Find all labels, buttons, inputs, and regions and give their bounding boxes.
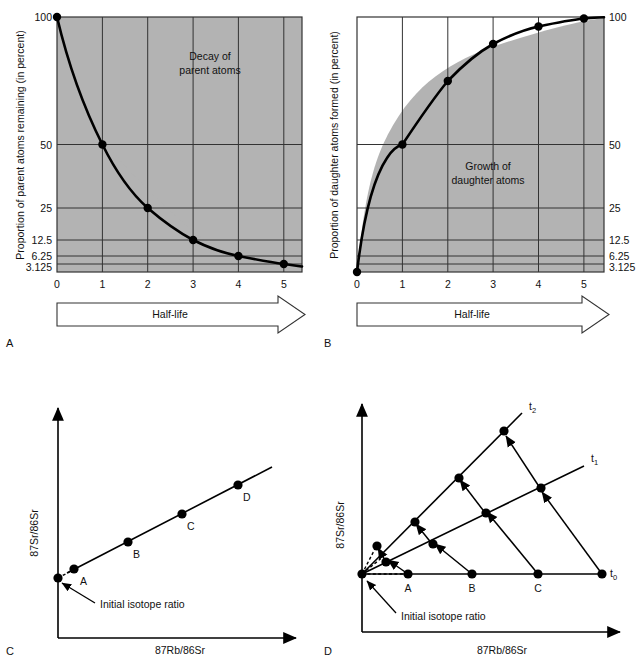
t0-point-b bbox=[467, 569, 476, 578]
t2-point-d bbox=[499, 426, 508, 435]
point-label-b: B bbox=[468, 582, 475, 594]
xtick-label: 1 bbox=[99, 278, 105, 290]
panel-d: A B C t0 t1 t2 Initial isotope ratio 87S… bbox=[320, 370, 641, 659]
panel-b-ytick-labels: 100 50 25 12.5 6.25 3.125 bbox=[609, 11, 635, 273]
panel-c-svg: A B C D Initial isotope ratio 87Sr/86Sr … bbox=[0, 370, 320, 659]
xtick-label: 3 bbox=[190, 278, 196, 290]
point-label-a: A bbox=[80, 575, 87, 587]
panel-d-intercept-point bbox=[357, 569, 366, 578]
panel-c-ylabel: 87Sr/86Sr bbox=[28, 509, 40, 557]
t2-point-b bbox=[410, 517, 419, 526]
xtick-label: 2 bbox=[445, 278, 451, 290]
ytick-label: 3.125 bbox=[609, 261, 635, 273]
t2-point-c bbox=[454, 473, 463, 482]
point-label-a: A bbox=[404, 582, 411, 594]
panel-c: A B C D Initial isotope ratio 87Sr/86Sr … bbox=[0, 370, 320, 659]
region-label-line2: daughter atoms bbox=[452, 174, 525, 186]
panel-b-ylabel: Proportion of daughter atoms formed (in … bbox=[328, 31, 340, 259]
panel-d-xlabel: 87Rb/86Sr bbox=[477, 644, 528, 656]
t1-point-d bbox=[536, 483, 545, 492]
panel-a-ylabel: Proportion of parent atoms remaining (in… bbox=[14, 30, 26, 259]
panel-b-letter: B bbox=[324, 337, 331, 349]
panel-d-time-label-t1: t1 bbox=[591, 452, 598, 467]
ytick-label: 25 bbox=[609, 202, 621, 214]
panel-c-xlabel: 87Rb/86Sr bbox=[155, 644, 206, 656]
svg-text:t1: t1 bbox=[591, 452, 598, 467]
xtick-label: 0 bbox=[354, 278, 360, 290]
panel-b-svg: 100 50 25 12.5 6.25 3.125 0 1 2 3 4 5 Gr… bbox=[320, 0, 641, 360]
ytick-label: 100 bbox=[609, 11, 627, 23]
xtick-label: 4 bbox=[536, 278, 542, 290]
region-label-line1: Growth of bbox=[465, 160, 511, 172]
t2-sub: 2 bbox=[532, 406, 536, 415]
panel-a-letter: A bbox=[6, 337, 14, 349]
panel-d-point-labels: A B C bbox=[404, 582, 542, 594]
panel-b: 100 50 25 12.5 6.25 3.125 0 1 2 3 4 5 Gr… bbox=[320, 0, 641, 360]
t1-point-c bbox=[481, 508, 490, 517]
panel-d-svg: A B C t0 t1 t2 Initial isotope ratio 87S… bbox=[320, 370, 641, 659]
panel-d-ylabel: 87Sr/86Sr bbox=[334, 501, 346, 549]
ytick-label: 50 bbox=[40, 139, 52, 151]
ytick-label: 12.5 bbox=[32, 234, 53, 246]
region-label-line2: parent atoms bbox=[179, 64, 240, 76]
panel-d-evolution-arrows-t0-t1 bbox=[388, 492, 602, 574]
t0-sub: 0 bbox=[613, 573, 617, 582]
panel-a-xlabel: Half-life bbox=[152, 308, 188, 320]
xtick-label: 1 bbox=[399, 278, 405, 290]
panel-a-ytick-labels: 100 50 25 12.5 6.25 3.125 bbox=[26, 11, 52, 273]
panel-a: 100 50 25 12.5 6.25 3.125 0 1 2 3 4 5 De… bbox=[0, 0, 320, 360]
ytick-label: 25 bbox=[40, 202, 52, 214]
figure-page: 100 50 25 12.5 6.25 3.125 0 1 2 3 4 5 De… bbox=[0, 0, 641, 659]
point-label-b: B bbox=[133, 548, 140, 560]
point-label-d: D bbox=[243, 491, 251, 503]
panel-d-time-label-t0: t0 bbox=[610, 567, 617, 582]
data-point-a bbox=[69, 564, 78, 573]
t1-point-b bbox=[428, 539, 437, 548]
panel-d-letter: D bbox=[324, 645, 332, 657]
xtick-label: 5 bbox=[281, 278, 287, 290]
data-point-c bbox=[177, 509, 186, 518]
ytick-label: 50 bbox=[609, 139, 621, 151]
data-point-d bbox=[233, 480, 242, 489]
svg-text:t0: t0 bbox=[610, 567, 617, 582]
ytick-label: 3.125 bbox=[26, 261, 52, 273]
xtick-label: 2 bbox=[145, 278, 151, 290]
panel-a-xtick-labels: 0 1 2 3 4 5 bbox=[54, 278, 287, 290]
panel-d-time-label-t2: t2 bbox=[529, 400, 536, 415]
panel-c-annotation-leader bbox=[62, 583, 95, 603]
panel-b-xlabel: Half-life bbox=[454, 308, 490, 320]
t0-point-d bbox=[597, 569, 606, 578]
xtick-label: 4 bbox=[235, 278, 241, 290]
point-label-c: C bbox=[534, 582, 542, 594]
panel-d-annotation-leader bbox=[367, 581, 396, 613]
t1-point-a bbox=[381, 557, 390, 566]
data-point-b bbox=[123, 537, 132, 546]
panel-d-annotation: Initial isotope ratio bbox=[401, 610, 486, 622]
region-label-line1: Decay of bbox=[189, 50, 231, 62]
t0-point-a bbox=[403, 569, 412, 578]
panel-c-point-labels: A B C D bbox=[80, 491, 251, 587]
xtick-label: 0 bbox=[54, 278, 60, 290]
t1-sub: 1 bbox=[594, 458, 598, 467]
xtick-label: 5 bbox=[581, 278, 587, 290]
panel-c-annotation: Initial isotope ratio bbox=[100, 598, 185, 610]
panel-b-xtick-labels: 0 1 2 3 4 5 bbox=[354, 278, 587, 290]
ytick-label: 12.5 bbox=[609, 234, 630, 246]
panel-d-isochron-t1 bbox=[362, 466, 584, 574]
t0-point-c bbox=[533, 569, 542, 578]
t2-point-a bbox=[372, 541, 381, 550]
panel-d-points-t2 bbox=[372, 426, 508, 550]
svg-text:t2: t2 bbox=[529, 400, 536, 415]
panel-c-letter: C bbox=[6, 645, 14, 657]
ytick-label: 100 bbox=[34, 11, 52, 23]
panel-c-intercept-point bbox=[53, 573, 62, 582]
panel-a-svg: 100 50 25 12.5 6.25 3.125 0 1 2 3 4 5 De… bbox=[0, 0, 320, 360]
point-label-c: C bbox=[187, 520, 195, 532]
xtick-label: 3 bbox=[490, 278, 496, 290]
